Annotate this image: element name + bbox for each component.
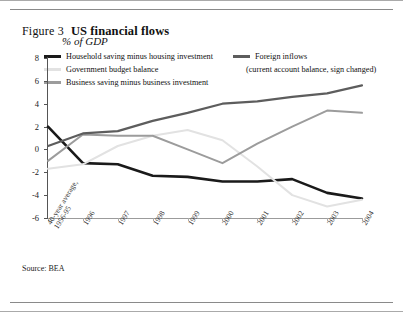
figure-subtitle: % of GDP bbox=[62, 35, 108, 47]
y-axis-label: 6 bbox=[13, 76, 39, 86]
series-line bbox=[48, 111, 362, 164]
y-axis-label: -4 bbox=[13, 190, 39, 200]
figure-number: Figure 3 bbox=[22, 24, 64, 38]
series-lines bbox=[48, 58, 362, 218]
top-rule bbox=[10, 9, 393, 10]
y-axis-label: 0 bbox=[13, 144, 39, 154]
y-axis-label: -2 bbox=[13, 167, 39, 177]
x-axis-line bbox=[47, 218, 363, 219]
x-axis-label: 2004 bbox=[360, 209, 376, 227]
y-axis-label: 8 bbox=[13, 53, 39, 63]
figure-container: Figure 3US financial flows % of GDP Hous… bbox=[0, 0, 403, 312]
series-line bbox=[48, 127, 362, 199]
bottom-rule bbox=[10, 302, 393, 303]
source-note: Source: BEA bbox=[22, 264, 64, 273]
y-axis-label: 4 bbox=[13, 99, 39, 109]
series-line bbox=[48, 130, 362, 207]
plot-area bbox=[48, 58, 362, 218]
y-axis-label: -6 bbox=[13, 213, 39, 223]
y-axis-label: 2 bbox=[13, 122, 39, 132]
